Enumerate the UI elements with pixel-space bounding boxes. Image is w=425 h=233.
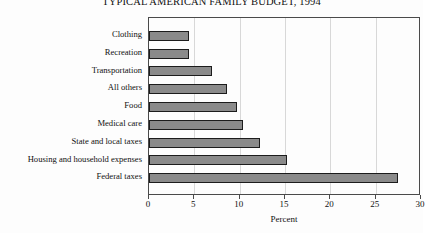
bar-row[interactable] (149, 152, 420, 170)
bar[interactable] (149, 66, 212, 76)
category-label: Food (0, 97, 145, 115)
x-tick-label: 20 (325, 199, 334, 209)
category-label: Transportation (0, 62, 145, 80)
category-label: Housing and household expenses (0, 151, 145, 169)
bar-row[interactable] (149, 63, 420, 81)
category-label: Federal taxes (0, 168, 145, 186)
category-label: Recreation (0, 44, 145, 62)
x-tick-label: 15 (280, 199, 289, 209)
bar[interactable] (149, 155, 287, 165)
category-label: Medical care (0, 115, 145, 133)
bar-row[interactable] (149, 169, 420, 187)
x-axis-tick-labels: 051015202530 (148, 199, 420, 212)
bar[interactable] (149, 173, 398, 183)
bar-row[interactable] (149, 98, 420, 116)
plot-area (148, 17, 420, 195)
bar-row[interactable] (149, 116, 420, 134)
bar[interactable] (149, 31, 189, 41)
bar[interactable] (149, 120, 243, 130)
category-label: Clothing (0, 26, 145, 44)
bar-row[interactable] (149, 80, 420, 98)
bar[interactable] (149, 84, 227, 94)
x-tick-label: 0 (146, 199, 151, 209)
bar[interactable] (149, 138, 260, 148)
bar-row[interactable] (149, 134, 420, 152)
chart-title: TYPICAL AMERICAN FAMILY BUDGET, 1994 (0, 0, 423, 7)
x-tick-label: 10 (234, 199, 243, 209)
bar[interactable] (149, 49, 189, 59)
x-axis-label: Percent (148, 214, 420, 224)
x-tick-label: 5 (191, 199, 196, 209)
x-tick-label: 30 (416, 199, 425, 209)
bar[interactable] (149, 102, 237, 112)
bar-row[interactable] (149, 45, 420, 63)
category-label: All others (0, 79, 145, 97)
category-label: State and local taxes (0, 133, 145, 151)
y-axis-category-labels: ClothingRecreationTransportationAll othe… (0, 17, 145, 195)
bar-row[interactable] (149, 27, 420, 45)
x-tick-label: 25 (370, 199, 379, 209)
